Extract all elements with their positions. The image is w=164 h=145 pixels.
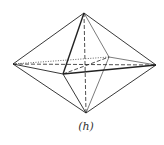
edge-top-back — [84, 13, 109, 57]
edge-bottom-front — [63, 74, 86, 113]
edge-front-right — [63, 65, 156, 74]
figure-caption: (h) — [72, 120, 100, 133]
edge-top-left — [13, 13, 84, 64]
edge-top-bottom — [84, 13, 86, 113]
edge-top-right — [84, 13, 156, 65]
edge-back-right — [109, 57, 156, 65]
edge-left-back — [13, 57, 109, 64]
edge-bottom-right — [86, 65, 156, 113]
edge-left-right — [13, 64, 156, 65]
